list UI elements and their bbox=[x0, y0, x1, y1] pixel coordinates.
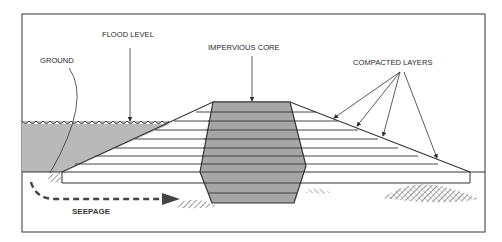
compacted-layers-label: COMPACTED LAYERS bbox=[353, 58, 432, 67]
impervious-core bbox=[200, 102, 306, 203]
flood-level-label: FLOOD LEVEL bbox=[102, 30, 154, 39]
seepage-label: SEEPAGE bbox=[72, 207, 111, 216]
ground-label: GROUND bbox=[40, 56, 74, 65]
levee-diagram: FLOOD LEVEL GROUND IMPERVIOUS CORE COMPA… bbox=[0, 0, 502, 242]
impervious-core-label: IMPERVIOUS CORE bbox=[208, 43, 280, 52]
